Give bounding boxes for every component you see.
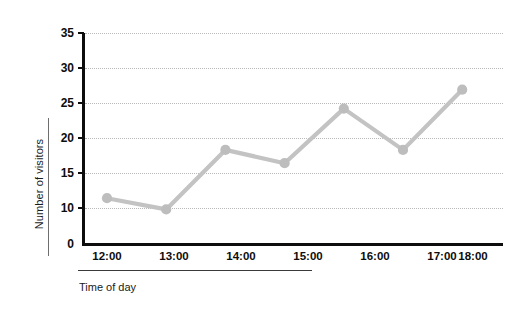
- data-point-15-00: [280, 158, 290, 168]
- x-axis-line: [82, 243, 503, 246]
- line-chart-figure: Number of visitors 35 30 25 20 15 10 0 1…: [0, 0, 531, 315]
- x-tick-label-13-00: 13:00: [144, 250, 204, 262]
- series-markers: [102, 85, 467, 215]
- data-point-13-00: [161, 204, 171, 214]
- data-point-17-00: [398, 145, 408, 155]
- data-series-layer: [0, 0, 531, 315]
- y-tick-mark-15: [78, 172, 84, 174]
- gridline-25: [85, 103, 503, 104]
- gridline-35: [85, 33, 503, 34]
- y-tick-mark-35: [78, 32, 84, 34]
- y-tick-label-20: 20: [48, 132, 74, 144]
- x-axis-title-rule: [78, 270, 312, 271]
- plot-area: 35 30 25 20 15 10 0 12:00 13:00 14:00 15…: [0, 0, 531, 315]
- gridline-10: [85, 208, 503, 209]
- series-line-number-of-visitors: [107, 90, 462, 210]
- x-tick-label-12-00: 12:00: [77, 250, 137, 262]
- y-tick-label-35: 35: [48, 27, 74, 39]
- data-point-16-00: [339, 104, 349, 114]
- gridline-20: [85, 138, 503, 139]
- x-tick-label-14-00: 14:00: [211, 250, 271, 262]
- y-tick-label-15: 15: [48, 167, 74, 179]
- data-point-12-00: [102, 193, 112, 203]
- x-tick-label-18-00: 18:00: [443, 250, 503, 262]
- y-tick-label-10: 10: [48, 202, 74, 214]
- y-tick-mark-20: [78, 137, 84, 139]
- y-tick-label-0: 0: [48, 238, 74, 250]
- x-tick-label-16-00: 16:00: [345, 250, 405, 262]
- y-tick-label-25: 25: [48, 97, 74, 109]
- data-point-18-00: [457, 85, 467, 95]
- y-axis-line: [82, 33, 85, 245]
- gridline-15: [85, 173, 503, 174]
- y-tick-label-30: 30: [48, 62, 74, 74]
- y-tick-mark-30: [78, 67, 84, 69]
- gridline-30: [85, 68, 503, 69]
- x-axis-title: Time of day: [79, 281, 136, 293]
- x-tick-label-15-00: 15:00: [278, 250, 338, 262]
- y-tick-mark-10: [78, 207, 84, 209]
- y-tick-mark-25: [78, 102, 84, 104]
- data-point-14-00: [220, 145, 230, 155]
